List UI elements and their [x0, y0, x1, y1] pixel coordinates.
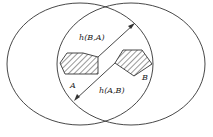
- label-b: B: [141, 73, 148, 82]
- hausdorff-diagram: h(B,A) h(A,B) A B: [0, 0, 213, 137]
- label-a: A: [69, 81, 76, 90]
- label-h-ab: h(A,B): [99, 86, 125, 95]
- shape-a: [60, 53, 98, 74]
- label-h-ba: h(B,A): [79, 33, 105, 42]
- arrowhead-h-ab: [74, 94, 80, 101]
